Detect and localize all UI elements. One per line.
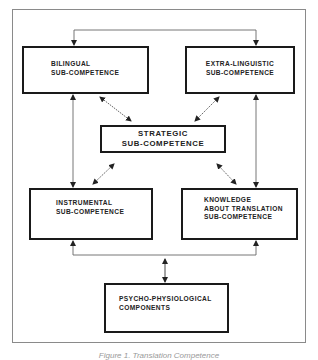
node-label-line: SUB-COMPETENCE: [206, 69, 274, 78]
connector-bottom-bracket: [73, 241, 256, 255]
connector-extra-strategic: [195, 97, 219, 121]
node-label: BILINGUAL SUB-COMPETENCE: [51, 60, 119, 77]
node-label-line: SUB-COMPETENCE: [204, 213, 283, 222]
connector-knowledge-strategic: [217, 164, 236, 184]
connector-bilingual-strategic: [100, 97, 131, 121]
node-label-line: SUB-COMPETENCE: [122, 139, 204, 149]
node-label-line: STRATEGIC: [122, 129, 204, 139]
node-label-line: ABOUT TRANSLATION: [204, 205, 283, 214]
node-label-line: EXTRA-LINGUISTIC: [206, 60, 274, 69]
figure-caption: Figure 1. Translation Competence: [0, 351, 318, 360]
node-psycho-physiological-components: PSYCHO-PHYSIOLOGICAL COMPONENTS: [104, 283, 229, 333]
node-label: EXTRA-LINGUISTIC SUB-COMPETENCE: [206, 60, 274, 77]
connector-top-bracket: [74, 30, 256, 45]
node-label: INSTRUMENTAL SUB-COMPETENCE: [56, 199, 124, 216]
connector-instrumental-strategic: [93, 164, 114, 184]
node-label-line: BILINGUAL: [51, 60, 119, 69]
node-label-line: KNOWLEDGE: [204, 196, 283, 205]
node-label-line: COMPONENTS: [119, 304, 212, 313]
node-strategic-sub-competence: STRATEGIC SUB-COMPETENCE: [100, 125, 226, 153]
node-label-line: INSTRUMENTAL: [56, 199, 124, 208]
node-label: PSYCHO-PHYSIOLOGICAL COMPONENTS: [119, 295, 212, 312]
node-label: STRATEGIC SUB-COMPETENCE: [122, 129, 204, 149]
node-label-line: SUB-COMPETENCE: [56, 208, 124, 217]
node-knowledge-about-translation: KNOWLEDGE ABOUT TRANSLATION SUB-COMPETEN…: [181, 188, 298, 240]
node-extra-linguistic-sub-competence: EXTRA-LINGUISTIC SUB-COMPETENCE: [185, 46, 295, 94]
node-label-line: PSYCHO-PHYSIOLOGICAL: [119, 295, 212, 304]
node-instrumental-sub-competence: INSTRUMENTAL SUB-COMPETENCE: [29, 188, 153, 240]
node-label-line: SUB-COMPETENCE: [51, 69, 119, 78]
node-label: KNOWLEDGE ABOUT TRANSLATION SUB-COMPETEN…: [204, 196, 283, 222]
node-bilingual-sub-competence: BILINGUAL SUB-COMPETENCE: [22, 46, 149, 94]
